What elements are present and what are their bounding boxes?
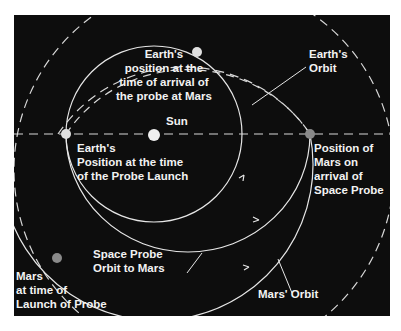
mars-arrival-marker <box>305 129 315 139</box>
diagram-panel: Sun Earth's position at the time of arri… <box>14 15 390 316</box>
arrow-earth-orbit <box>239 175 244 181</box>
sun-label: Sun <box>166 114 188 128</box>
earth-arrival-label: Earth's position at the time of arrival … <box>116 47 212 103</box>
mars-launch-marker <box>52 253 62 263</box>
arrow-mars-orbit <box>243 265 249 270</box>
mars-orbit-label: Mars' Orbit <box>258 287 318 301</box>
earth-launch-marker <box>61 129 71 139</box>
earth-launch-label: Earth's Position at the time of the Prob… <box>77 141 188 183</box>
mars-arrival-label: Position of Mars on arrival of Space Pro… <box>314 141 384 197</box>
mars-launch-label: Mars at time of Launch of Probe <box>16 269 107 311</box>
sun-marker <box>148 129 160 141</box>
earth-orbit-label: Earth's Orbit <box>309 47 348 75</box>
earth-orbit-leader <box>252 67 306 105</box>
arrow-transfer <box>253 217 259 222</box>
probe-orbit-leader <box>187 253 202 273</box>
